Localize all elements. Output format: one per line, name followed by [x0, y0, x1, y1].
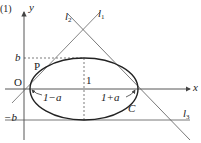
- line-l3-label: l3: [183, 108, 190, 121]
- one-tick-label: 1: [86, 75, 92, 86]
- point-p-label: P: [34, 61, 40, 72]
- left-semi-label: 1−a: [43, 92, 61, 103]
- diagram-graphics: [0, 0, 201, 143]
- arrow-left-semi: [32, 90, 42, 95]
- problem-number: (1): [0, 4, 12, 14]
- x-axis-label: x: [193, 82, 198, 93]
- arrow-right-semi: [126, 90, 135, 97]
- curve-c-label: C: [128, 103, 135, 114]
- right-semi-label: 1+a: [101, 92, 119, 103]
- y-axis-label: y: [29, 2, 34, 13]
- neg-b-tick-label: −b: [4, 112, 17, 123]
- diagram: (1) y x O b −b 1 P C 1−a 1+a l1 l2 l3: [0, 0, 201, 143]
- b-tick-label: b: [15, 52, 21, 63]
- line-l2-label: l2: [65, 11, 72, 24]
- line-l1-label: l1: [98, 8, 105, 21]
- origin-label: O: [14, 77, 22, 88]
